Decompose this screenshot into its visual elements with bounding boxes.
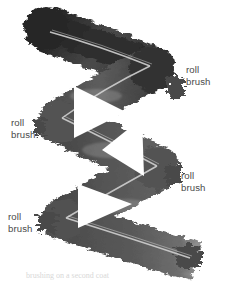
annotation-line-2: brush	[181, 182, 206, 194]
annotation-roll-brush-mid-left: roll brush	[11, 117, 36, 140]
annotation-line-2: brush	[8, 223, 33, 235]
brushstroke-image	[0, 0, 235, 282]
annotation-line-1: roll	[11, 117, 36, 129]
annotation-roll-brush-top-right: roll brush	[186, 64, 211, 87]
annotation-line-1: roll	[8, 211, 33, 223]
figure-container: roll brush roll brush roll brush roll br…	[0, 0, 235, 282]
annotation-line-2: brush	[11, 129, 36, 141]
annotation-roll-brush-lower-right: roll brush	[181, 170, 206, 193]
annotation-line-1: roll	[186, 64, 211, 76]
annotation-line-2: brush	[186, 76, 211, 88]
cropped-caption-text: brushing on a second coat	[26, 272, 109, 281]
annotation-roll-brush-bottom-left: roll brush	[8, 211, 33, 234]
cropped-caption-strip: brushing on a second coat	[0, 272, 235, 282]
annotation-line-1: roll	[181, 170, 206, 182]
